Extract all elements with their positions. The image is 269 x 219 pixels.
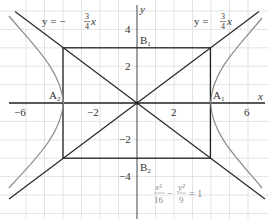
svg-text:y =: y =: [194, 15, 208, 27]
svg-text:3: 3: [221, 12, 225, 21]
svg-text:3: 3: [85, 12, 89, 21]
svg-text:4: 4: [85, 22, 89, 31]
origin-point: [135, 101, 138, 104]
svg-text:= 1: = 1: [189, 188, 202, 199]
label-B2: B2: [140, 161, 151, 175]
svg-text:4: 4: [221, 22, 225, 31]
svg-text:9: 9: [179, 195, 184, 205]
x-tick-6: 6: [244, 106, 250, 118]
x-tick-2: 2: [171, 106, 177, 118]
y-tick-2: 2: [125, 60, 131, 72]
y-tick-neg2: −2: [119, 133, 131, 145]
svg-text:y = −: y = −: [42, 15, 65, 27]
label-A1: A1: [213, 89, 225, 103]
y-tick-neg4: −4: [119, 170, 131, 182]
asymptote-positive: [9, 12, 259, 200]
diagram-canvas: x y −6 −2 2 6 4 2 −2 −4 A2 A1 B1 B2 y = …: [0, 0, 269, 219]
x-axis-label: x: [257, 90, 263, 102]
y-tick-4: 4: [125, 23, 131, 35]
hyperbola-equation: x² 16 − y² 9 = 1: [154, 182, 202, 205]
label-A2: A2: [49, 89, 61, 103]
svg-text:y²: y²: [177, 182, 185, 192]
x-tick-neg2: −2: [87, 106, 99, 118]
svg-text:16: 16: [154, 195, 164, 205]
asymptote-positive-equation: y = 3 4 x: [194, 12, 232, 31]
svg-text:−: −: [167, 188, 173, 199]
hyperbola-diagram: x y −6 −2 2 6 4 2 −2 −4 A2 A1 B1 B2 y = …: [0, 0, 269, 219]
label-B1: B1: [140, 34, 151, 48]
svg-text:x: x: [226, 15, 232, 27]
svg-text:x²: x²: [154, 182, 162, 192]
grid: [0, 0, 269, 219]
x-tick-neg6: −6: [14, 106, 26, 118]
svg-text:x: x: [90, 15, 96, 27]
asymptote-negative-equation: y = − 3 4 x: [42, 12, 96, 31]
y-axis-label: y: [139, 3, 145, 15]
